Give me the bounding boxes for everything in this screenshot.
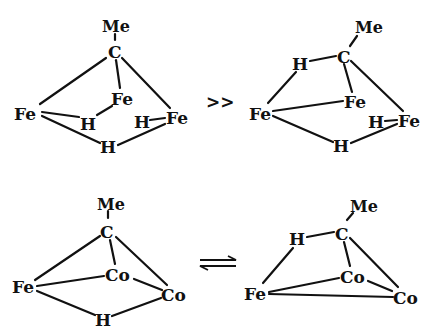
bond-fe-left-h-bottom — [273, 116, 333, 142]
bond-c-fe-mid — [116, 60, 120, 88]
atom-h-bottom: H — [100, 137, 116, 157]
bond-fe-left-fe-mid — [273, 101, 343, 111]
atom-c: C — [100, 222, 114, 242]
forward-half-arrow — [200, 256, 236, 260]
bond-fe-co-mid — [269, 278, 339, 292]
atom-fe: Fe — [12, 277, 34, 297]
atom-co-right: Co — [393, 288, 418, 308]
bond-h-right-fe-right — [150, 118, 165, 120]
atom-h-bottom: H — [333, 136, 349, 156]
atom-c: C — [108, 42, 122, 62]
bond-h-top-fe — [263, 248, 293, 283]
atom-c: C — [335, 224, 349, 244]
bond-co-mid-co-right — [134, 279, 162, 290]
atom-fe-left: Fe — [249, 104, 271, 124]
atom-fe-right: Fe — [166, 108, 188, 128]
atom-me: Me — [355, 18, 383, 37]
atom-co-mid: Co — [105, 265, 130, 285]
bond-h-co-right — [112, 298, 161, 316]
bond-c-fe-mid — [344, 64, 352, 92]
scheme-canvas: Me C Fe Fe Fe H H H >> Me C H Fe Fe Fe H… — [0, 0, 431, 333]
feco2-left-structure: Me C Fe Co Co H — [12, 195, 186, 330]
reverse-half-arrow — [200, 266, 236, 270]
atom-me: Me — [97, 195, 125, 214]
bond-c-co-mid — [344, 242, 350, 266]
atom-h-right: H — [134, 112, 150, 132]
atom-c: C — [337, 47, 351, 67]
equilibrium-arrows-icon — [200, 256, 236, 270]
fe3-left-structure: Me C Fe Fe Fe H H H — [14, 17, 188, 157]
atom-fe-mid: Fe — [111, 89, 133, 109]
atom-h-bottom: H — [95, 310, 111, 330]
bond-h-right-fe-right — [385, 120, 397, 121]
bond-h-left-fe-mid — [97, 106, 112, 115]
atom-fe: Fe — [244, 284, 266, 304]
atom-h-right: H — [368, 112, 384, 132]
atom-h-left: H — [80, 114, 96, 134]
atom-fe-mid: Fe — [344, 92, 366, 112]
bond-c-co-mid — [110, 240, 115, 264]
bond-co-mid-co-right — [368, 281, 392, 291]
bond-fe-co-mid — [37, 276, 104, 286]
bond-h-top-fe-left — [268, 72, 296, 103]
bond-fe-left-h-left — [42, 112, 79, 117]
atom-co-right: Co — [161, 285, 186, 305]
atom-h-top: H — [292, 54, 308, 74]
atom-me: Me — [350, 197, 378, 216]
bond-fe-h — [37, 291, 95, 315]
feco2-right-structure: Me C H Fe Co Co — [244, 197, 418, 308]
bond-c-fe-left — [40, 58, 106, 104]
fe3-right-structure: Me C H Fe Fe Fe H H — [249, 18, 420, 156]
atom-h-top: H — [289, 229, 305, 249]
bond-fe-co-right — [269, 294, 393, 297]
bond-me-c — [350, 36, 357, 46]
bond-h-top-c — [310, 56, 336, 61]
atom-fe-right: Fe — [398, 111, 420, 131]
atom-co-mid: Co — [340, 267, 365, 287]
atom-me: Me — [102, 17, 130, 36]
atom-fe-left: Fe — [14, 104, 36, 124]
chemical-scheme-figure: Me C Fe Fe Fe H H H >> Me C H Fe Fe Fe H… — [0, 0, 431, 333]
bond-h-top-c — [307, 232, 334, 237]
bond-c-fe — [35, 236, 100, 280]
much-greater-than-symbol: >> — [206, 92, 235, 112]
